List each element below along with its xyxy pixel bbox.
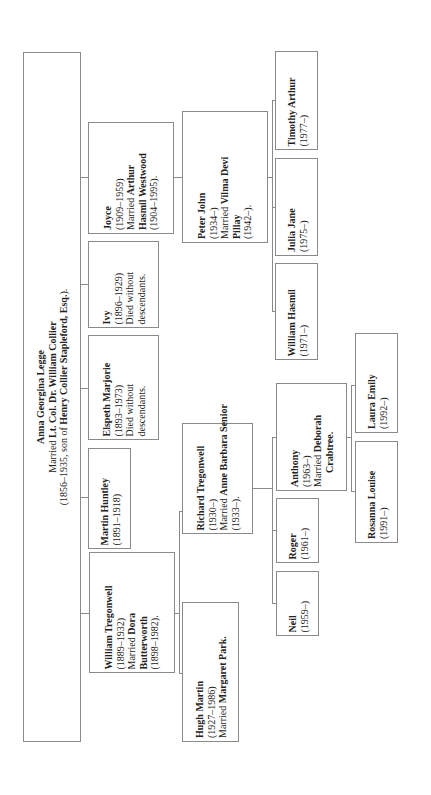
root-name: Anna Georgina Legge (35, 57, 47, 737)
person-box-ivy: Ivy (1896–1929) Died without descendants… (88, 241, 159, 328)
person-box-anthony: Anthony (1963–) Married Deborah Crabtree… (276, 383, 347, 491)
person-box-roger: Roger (1961–) (276, 498, 319, 563)
person-box-hugh: Hugh Martin (1927–1986) Married Margaret… (182, 602, 239, 742)
connector-joyce-peter (174, 177, 182, 178)
root-spouse: Lt. Col. Dr. William Collier (46, 321, 57, 438)
person-box-william-tregonwell: William Tregonwell (1889–1932) Married D… (89, 552, 175, 673)
root-text: Anna Georgina Legge Married Lt. Col. Dr.… (35, 57, 70, 737)
connector-william (80, 613, 89, 614)
person-box-william-hasmil: William Hasmil (1971–) (275, 263, 318, 360)
person-box-laura: Laura Emily (1992–) (355, 333, 398, 433)
connector-peter-vertical (272, 100, 273, 312)
person-box-martin: Martin Huntley (1891–1918) (88, 448, 131, 549)
connector-richard-children (253, 488, 273, 489)
connector-ivy (80, 284, 88, 285)
root-spouse-father: Henry Collier Stapleford, Esq. (58, 295, 69, 425)
person-box-joyce: Joyce (1909–1959) Married Arthur Hasmil … (88, 122, 174, 234)
connector-richard-vertical (272, 437, 273, 604)
root-person-box: Anna Georgina Legge Married Lt. Col. Dr.… (23, 52, 81, 742)
person-box-rosanna: Rosanna Louise (1991–) (355, 441, 398, 543)
person-box-elspeth: Elspeth Marjorie (1893–1973) Died withou… (88, 335, 159, 440)
connector-martin (80, 497, 88, 498)
connector-anthony-vertical (351, 385, 352, 492)
connector-elspeth (80, 388, 88, 389)
person-box-neil: Neil (1959–) (276, 571, 319, 636)
connector-william-vertical (179, 511, 180, 674)
person-box-peter: Peter John (1934–) Married Vilma Devi Pi… (182, 111, 268, 243)
person-box-julia: Julia Jane (1975–) (275, 158, 318, 256)
person-box-richard: Richard Tregonwell (1930–) Married Anne … (182, 423, 253, 534)
connector-joyce (80, 177, 88, 178)
person-box-timothy: Timothy Arthur (1977–) (275, 51, 318, 150)
